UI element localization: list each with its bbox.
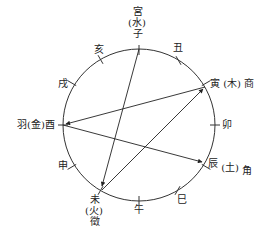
label-wei: 未 (火) 徵 [88, 194, 102, 227]
label-mao: 卯 [222, 119, 232, 130]
note-yu: 羽 [17, 119, 27, 130]
note-jue: 角 [242, 165, 252, 176]
arrow-you-to-chen [63, 125, 202, 162]
arrow-yin-to-you [66, 87, 205, 124]
label-hai: 亥 [94, 44, 104, 55]
label-zi: 宮 (水) 子 [131, 6, 145, 39]
branch-yin: 寅 [210, 78, 220, 89]
label-xu: 戌 [58, 78, 68, 89]
element-water: (水) [128, 17, 145, 28]
label-wu: 午 [134, 204, 144, 215]
label-chou: 丑 [173, 42, 183, 53]
branch-mao: 卯 [222, 119, 232, 130]
tick-marks [58, 45, 220, 205]
arrow-zi-to-wei [102, 49, 139, 186]
label-chen: 辰 (土) 角 [208, 158, 252, 169]
label-shen: 申 [58, 160, 68, 171]
branch-xu: 戌 [58, 78, 68, 89]
element-wood: (木) [223, 78, 241, 89]
branch-zi: 子 [131, 28, 145, 39]
element-fire: (火) [85, 205, 102, 216]
label-si: 巳 [177, 194, 187, 205]
element-metal: (金) [27, 119, 45, 130]
branch-chen: 辰 [208, 158, 218, 169]
branch-wei: 未 [88, 194, 102, 205]
note-zhi: 徵 [88, 216, 102, 227]
label-you: 羽(金)酉 [17, 119, 55, 130]
branch-si: 巳 [177, 194, 187, 205]
note-gong: 宮 [131, 6, 145, 17]
branch-hai: 亥 [94, 44, 104, 55]
main-circle [63, 49, 215, 201]
element-earth: (土) [221, 162, 239, 173]
branch-wu: 午 [134, 204, 144, 215]
branch-you: 酉 [45, 119, 55, 130]
note-shang: 商 [244, 78, 254, 89]
branch-shen: 申 [58, 160, 68, 171]
label-yin: 寅 (木) 商 [210, 78, 254, 89]
branch-chou: 丑 [173, 42, 183, 53]
arrows [63, 49, 205, 190]
